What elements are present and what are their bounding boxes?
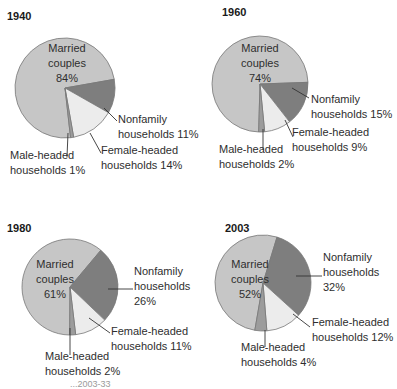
label-line2: households 12% [312, 330, 393, 345]
married-label-line2: couples [42, 56, 92, 71]
married-label-1980: Married couples 61% [30, 257, 80, 302]
nonfamily-label-2003: Nonfamily households 32% [323, 250, 379, 295]
female-label-1940: Female-headed households 14% [101, 143, 182, 173]
label-line2: households 14% [101, 158, 182, 173]
label-line1: Nonfamily [118, 112, 199, 127]
female-leader-line [90, 133, 101, 153]
label-line2: households [323, 265, 379, 280]
label-line1: Nonfamily [134, 264, 190, 279]
male-label-2003: Male-headed households 4% [241, 340, 316, 370]
label-line2: households 11% [118, 127, 199, 142]
married-label-value: 52% [225, 287, 275, 302]
label-line1: Female-headed [292, 125, 369, 140]
source-caption: ...2003-33 [70, 379, 111, 389]
married-label-value: 74% [235, 71, 285, 86]
married-label-value: 61% [30, 287, 80, 302]
label-line2: households 2% [45, 364, 120, 379]
married-label-line2: couples [30, 272, 80, 287]
label-line1: Male-headed [45, 349, 120, 364]
married-label-line1: Married [42, 41, 92, 56]
male-label-1940: Male-headed households 1% [10, 148, 85, 178]
married-label-line1: Married [225, 257, 275, 272]
female-leader-line [293, 314, 310, 327]
male-label-1960: Male-headed households 2% [219, 142, 294, 172]
married-label-line2: couples [235, 56, 285, 71]
pie-title-2003: 2003 [225, 222, 249, 234]
label-line1: Male-headed [241, 340, 316, 355]
pie-title-1940: 1940 [7, 10, 31, 22]
married-label-line1: Married [235, 41, 285, 56]
label-line1: Male-headed [10, 148, 85, 163]
label-line2: households 11% [111, 339, 192, 354]
label-line2: households 4% [241, 355, 316, 370]
pie-title-1980: 1980 [7, 222, 31, 234]
label-line2: households 1% [10, 163, 85, 178]
label-line3: 32% [323, 280, 379, 295]
label-line1: Nonfamily [323, 250, 379, 265]
pie-title-1960: 1960 [222, 6, 246, 18]
label-line3: 26% [134, 294, 190, 309]
married-label-line2: couples [225, 272, 275, 287]
label-line1: Male-headed [219, 142, 294, 157]
female-label-1980: Female-headed households 11% [111, 324, 192, 354]
female-label-1960: Female-headed households 9% [292, 125, 369, 155]
label-line1: Female-headed [101, 143, 182, 158]
married-label-1960: Married couples 74% [235, 41, 285, 86]
married-label-1940: Married couples 84% [42, 41, 92, 86]
married-label-2003: Married couples 52% [225, 257, 275, 302]
male-label-1980: Male-headed households 2% [45, 349, 120, 379]
nonfamily-label-1980: Nonfamily households 26% [134, 264, 190, 309]
married-label-value: 84% [42, 71, 92, 86]
married-label-line1: Married [30, 257, 80, 272]
label-line2: households [134, 279, 190, 294]
label-line1: Female-headed [111, 324, 192, 339]
label-line2: households 15% [311, 107, 392, 122]
female-label-2003: Female-headed households 12% [312, 315, 393, 345]
nonfamily-label-1940: Nonfamily households 11% [118, 112, 199, 142]
label-line2: households 9% [292, 140, 369, 155]
nonfamily-label-1960: Nonfamily households 15% [311, 92, 392, 122]
label-line1: Female-headed [312, 315, 393, 330]
label-line1: Nonfamily [311, 92, 392, 107]
label-line2: households 2% [219, 157, 294, 172]
